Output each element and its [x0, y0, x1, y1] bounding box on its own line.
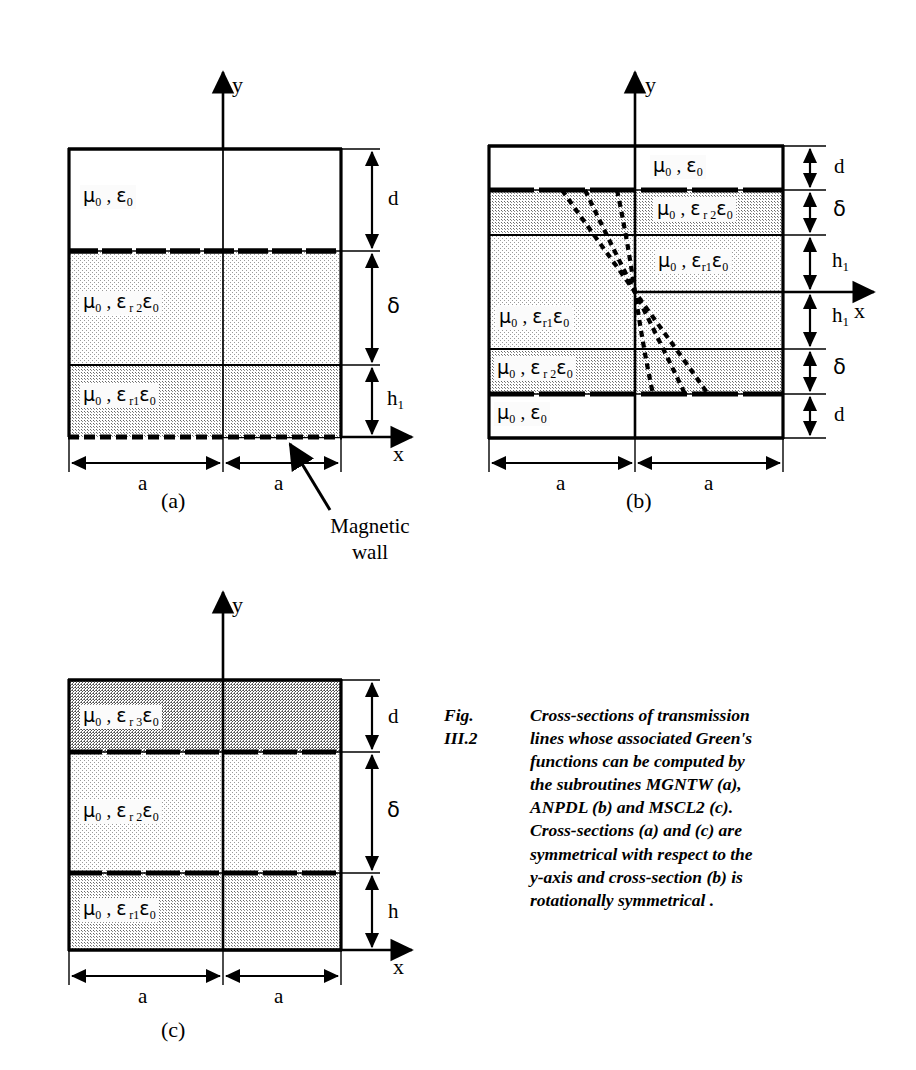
panel-b-material-label-4: μ0 , ε r 2ε0	[494, 357, 576, 381]
panel-a-material-label-2: μ0 , ε r1ε0	[80, 384, 159, 408]
panel-a-thickness-label-2: h1	[387, 388, 404, 411]
panel-b-thickness-label-4: δ	[833, 357, 846, 378]
panel-a-width-dimensions	[69, 437, 341, 472]
panel-c-width-label-1: a	[274, 986, 283, 1007]
figure-root: y x μ0 , ε0 μ0 , ε r 2ε0 μ0 , ε r1ε0 d δ…	[0, 0, 916, 1070]
panel-b-caption-label: (b)	[626, 490, 652, 512]
panel-a-width-label-0: a	[138, 473, 147, 494]
panel-b-width-label-0: a	[556, 473, 565, 494]
panel-c-width-dimensions	[69, 950, 341, 985]
panel-a-thickness-label-1: δ	[387, 296, 400, 317]
panel-b-thickness-label-0: d	[834, 156, 845, 177]
panel-b-x-axis-label: x	[854, 300, 865, 322]
panel-b-width-label-1: a	[704, 473, 713, 494]
panel-b-material-label-1: μ0 , ε r 2ε0	[654, 198, 736, 222]
panel-c	[68, 592, 412, 985]
panel-b-material-label-0: μ0 , ε0	[650, 155, 706, 179]
panel-a-y-axis-label: y	[232, 74, 243, 96]
panel-a-thickness-label-0: d	[388, 188, 399, 209]
panel-b-material-label-3: μ0 , εr1ε0	[496, 306, 573, 330]
panel-b-material-label-5: μ0 , ε0	[494, 402, 550, 426]
panel-c-thickness-label-1: δ	[387, 800, 400, 821]
panel-a-width-label-1: a	[274, 473, 283, 494]
panel-b-width-dimensions	[489, 438, 783, 472]
panel-a-x-axis-label: x	[393, 443, 404, 465]
panel-a-dimensions	[341, 149, 380, 437]
panel-c-dimensions	[341, 680, 380, 950]
panel-c-y-axis-label: y	[232, 594, 243, 616]
magnetic-wall-label-line1: Magnetic	[310, 514, 430, 538]
panel-c-x-axis-label: x	[393, 956, 404, 978]
panel-c-material-label-2: μ0 , ε r1ε0	[80, 898, 159, 922]
panel-c-material-label-1: μ0 , ε r 2ε0	[80, 800, 162, 824]
figure-number: Fig. III.2	[444, 704, 504, 750]
panel-c-thickness-label-2: h	[388, 901, 399, 922]
panel-c-caption-label: (c)	[161, 1019, 185, 1041]
magnetic-wall-leader	[290, 444, 330, 510]
panel-a-material-label-1: μ0 , ε r 2ε0	[80, 291, 162, 315]
panel-c-thickness-label-0: d	[388, 706, 399, 727]
panel-c-width-label-0: a	[138, 986, 147, 1007]
panel-b-y-axis-label: y	[645, 74, 656, 96]
figure-caption: Cross-sections of transmission lines who…	[530, 704, 916, 912]
panel-a-caption-label: (a)	[161, 490, 185, 512]
panel-b-thickness-label-2: h1	[832, 250, 849, 273]
panel-b-thickness-label-5: d	[834, 404, 845, 425]
panel-c-material-label-0: μ0 , ε r 3ε0	[80, 705, 162, 729]
magnetic-wall-label-line2: wall	[310, 540, 430, 564]
panel-b-thickness-label-3: h1	[832, 305, 849, 328]
panel-b-thickness-label-1: δ	[833, 199, 846, 220]
panel-a-material-label-0: μ0 , ε0	[80, 185, 136, 209]
panel-b-material-label-2: μ0 , εr1ε0	[655, 250, 732, 274]
